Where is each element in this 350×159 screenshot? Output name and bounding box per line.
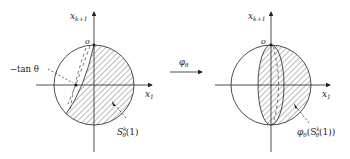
diagram-canvas: xk+1 x1 o −tan θ Skθ(1) φθ xk+1 x1 o φθ(…	[0, 0, 350, 159]
origin-point-right	[270, 44, 273, 47]
tan-theta-leader	[48, 69, 73, 83]
map-arrow: φθ	[170, 57, 202, 72]
x1-label-right: x1	[322, 89, 331, 100]
origin-label-right: o	[261, 37, 266, 46]
region-leader-right	[297, 108, 309, 123]
origin-label-left: o	[85, 37, 90, 46]
xk1-label-right: xk+1	[248, 11, 266, 22]
region-label-right: φθ(Skθ(1))	[297, 126, 335, 138]
region-label-left: Skθ(1)	[117, 126, 139, 138]
x1-label-left: x1	[145, 89, 154, 100]
xk1-label-left: xk+1	[70, 11, 88, 22]
origin-point-left	[93, 44, 96, 47]
map-label: φθ	[179, 57, 189, 68]
tan-theta-point	[74, 83, 77, 86]
tan-theta-label: −tan θ	[10, 64, 39, 74]
right-panel: xk+1 x1 o φθ(Skθ(1))	[215, 11, 335, 152]
left-panel: xk+1 x1 o −tan θ Skθ(1)	[10, 11, 154, 152]
